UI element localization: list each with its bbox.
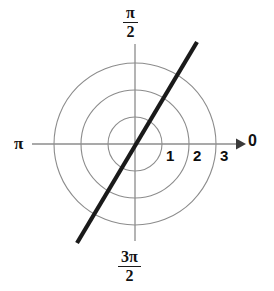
radial-tick-2: 2	[193, 148, 201, 163]
polar-plot-figure: π 0 π 2 3π 2 1 2 3	[0, 0, 274, 291]
fraction-denominator: 2	[123, 23, 138, 40]
fraction-three-half-pi: 3π 2	[118, 249, 141, 285]
fraction-half-pi: π 2	[123, 5, 138, 41]
radial-tick-1: 1	[166, 148, 174, 163]
fraction-numerator: 3π	[118, 249, 141, 267]
radial-tick-3: 3	[220, 148, 228, 163]
fraction-numerator: π	[123, 5, 138, 23]
angle-label-three-half-pi: 3π 2	[118, 249, 141, 285]
data-line	[77, 42, 197, 243]
fraction-denominator: 2	[118, 267, 141, 284]
angle-label-pi: π	[14, 135, 23, 152]
angle-label-half-pi: π 2	[123, 5, 138, 41]
axis-arrow-icon	[236, 139, 246, 150]
angle-label-zero: 0	[248, 133, 257, 149]
